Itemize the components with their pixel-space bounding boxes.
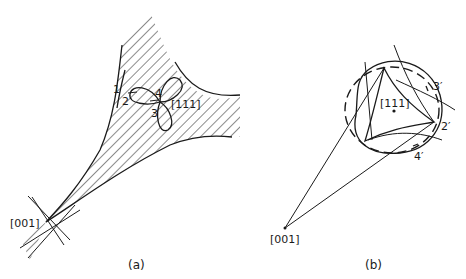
label-point-3: 3 [151, 107, 158, 120]
label-point-3p: 3′ [433, 80, 443, 93]
label-001-b: [001] [270, 233, 300, 246]
label-111-a: [111] [171, 98, 201, 111]
label-point-4: 4 [155, 87, 162, 100]
marker-3p [426, 86, 428, 91]
panel-a: [001] [111] 1 2 3 4 (a) [10, 12, 240, 272]
caption-b: (b) [365, 258, 382, 272]
hatched-region [46, 12, 240, 222]
label-point-1: 1 [113, 83, 120, 96]
panel-b: [111] [001] 3′ 2′ 4′ (b) [270, 45, 455, 272]
label-001-a: [001] [10, 217, 40, 230]
pole-001-dot [284, 227, 287, 230]
label-point-2p: 2′ [441, 120, 451, 133]
cross-line-2 [394, 45, 434, 122]
label-111-b: [111] [380, 97, 410, 110]
figure-canvas: [001] [111] 1 2 3 4 (a) [111] [001] 3′ 2… [0, 0, 466, 279]
label-point-2: 2 [122, 95, 129, 108]
ray-lower [285, 122, 434, 228]
caption-a: (a) [128, 258, 145, 272]
label-point-4p: 4′ [414, 150, 424, 163]
